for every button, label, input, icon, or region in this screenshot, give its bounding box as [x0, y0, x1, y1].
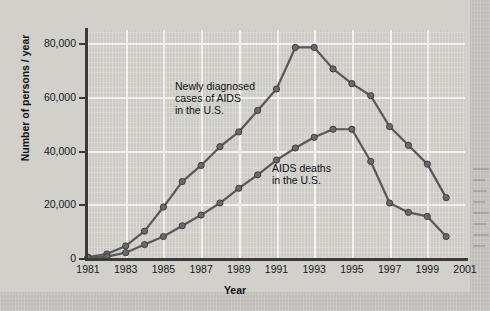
data-point [292, 145, 298, 151]
data-point [387, 123, 393, 129]
figure-root: 020,00040,00060,00080,000 19811983198519… [0, 0, 490, 311]
y-tick-label: 80,000 [44, 37, 76, 49]
data-point [179, 178, 185, 184]
y-axis-tick [79, 43, 86, 45]
data-point [330, 126, 336, 132]
data-point [123, 250, 129, 256]
data-point [292, 44, 298, 50]
y-axis-tick [79, 97, 86, 99]
series-line-2 [88, 129, 446, 257]
data-point [424, 213, 430, 219]
data-point [123, 243, 129, 249]
data-point [349, 126, 355, 132]
y-tick-label: 0 [70, 252, 76, 264]
data-point [311, 134, 317, 140]
data-point [273, 86, 279, 92]
plot-area [88, 30, 465, 258]
data-point [349, 81, 355, 87]
data-point [424, 161, 430, 167]
data-point [443, 233, 449, 239]
data-point [141, 228, 147, 234]
data-point [198, 212, 204, 218]
annotation-newly-diagnosed-cases: Newly diagnosed cases of AIDS in the U.S… [175, 80, 255, 117]
data-point [387, 200, 393, 206]
x-tick-label: 1983 [114, 263, 137, 275]
data-point [330, 66, 336, 72]
data-point [179, 223, 185, 229]
x-tick-label: 1985 [152, 263, 175, 275]
x-tick-label: 1995 [340, 263, 363, 275]
y-tick-label: 60,000 [44, 91, 76, 103]
x-tick-label: 1991 [265, 263, 288, 275]
data-point [255, 172, 261, 178]
y-axis-line [85, 28, 88, 260]
x-tick-label: 1993 [303, 263, 326, 275]
y-tick-label: 40,000 [44, 145, 76, 157]
data-point [160, 233, 166, 239]
data-point [236, 185, 242, 191]
y-axis-title: Number of persons / year [19, 28, 31, 168]
data-point [217, 144, 223, 150]
y-axis-tick [79, 204, 86, 206]
data-point [405, 142, 411, 148]
annotation-aids-deaths: AIDS deaths in the U.S. [272, 162, 331, 186]
data-point [443, 195, 449, 201]
data-point [198, 162, 204, 168]
data-point [236, 129, 242, 135]
series-container [88, 30, 465, 258]
data-point [368, 158, 374, 164]
y-axis-tick [79, 258, 86, 260]
x-tick-label: 1999 [416, 263, 439, 275]
data-point [217, 200, 223, 206]
x-tick-label: 1989 [227, 263, 250, 275]
data-point [311, 44, 317, 50]
data-point [141, 241, 147, 247]
x-tick-label: 1981 [76, 263, 99, 275]
data-point [405, 209, 411, 215]
x-tick-label: 2001 [453, 263, 476, 275]
margin-caption-marks [473, 168, 489, 260]
x-axis-line [85, 258, 468, 261]
y-tick-label: 20,000 [44, 198, 76, 210]
x-axis-title: Year [0, 284, 470, 296]
data-point [255, 107, 261, 113]
x-tick-label: 1987 [189, 263, 212, 275]
data-point [160, 204, 166, 210]
data-point [368, 93, 374, 99]
y-axis-tick [79, 151, 86, 153]
x-tick-label: 1997 [378, 263, 401, 275]
series-line-1 [88, 47, 446, 257]
